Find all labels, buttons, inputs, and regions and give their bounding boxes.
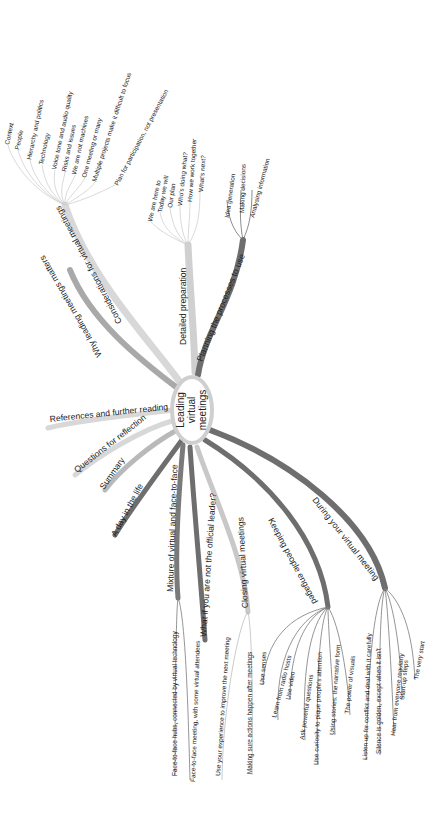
leaf-making-sure-actions[interactable]: Making sure actions happen after meeting… bbox=[246, 652, 254, 774]
central-title-line-3: meetings bbox=[197, 390, 208, 431]
leaf-analysing-info[interactable]: Analysing information bbox=[248, 157, 272, 219]
leaf-whats-next[interactable]: What's next? bbox=[197, 154, 207, 192]
leaf-labels: Context People Hierarchy and politics Te… bbox=[3, 71, 427, 782]
central-title-line-1: Leading bbox=[175, 392, 186, 428]
branch-label-day-in-life[interactable]: A day in the life bbox=[109, 482, 145, 538]
branch-ribbons bbox=[48, 205, 385, 640]
branch-label-closing[interactable]: Closing virtual meetings bbox=[235, 517, 250, 609]
leaf-technology[interactable]: Technology bbox=[37, 131, 52, 165]
branch-label-detailed-prep[interactable]: Detailed preparation bbox=[178, 267, 188, 345]
branch-detailed-prep bbox=[188, 245, 195, 372]
branch-label-references[interactable]: References and further reading bbox=[49, 402, 169, 424]
leaf-silence-golden[interactable]: Silence is golden, except when it isn't bbox=[375, 648, 383, 754]
leaf-listen-conflict[interactable]: Listen up for conflict and deal with it … bbox=[361, 632, 373, 760]
central-title-line-2: virtual bbox=[186, 397, 197, 424]
leaf-context[interactable]: Context bbox=[3, 122, 14, 145]
leaf-use-senses[interactable]: Use senses bbox=[258, 651, 267, 685]
branch-label-keeping[interactable]: Keeping people engaged bbox=[266, 516, 320, 605]
branch-label-planning[interactable]: Planning the processes to use bbox=[195, 252, 247, 363]
leaf-face-hubs[interactable]: Face-to-face hubs, connected by virtual … bbox=[171, 631, 179, 776]
leaf-idea-generation[interactable]: Idea generation bbox=[223, 173, 237, 219]
leaf-curiosity[interactable]: Use curiosity to pique people's attentio… bbox=[312, 652, 324, 765]
mindmap-canvas: Leading virtual meetings Considerations … bbox=[0, 0, 439, 818]
leaf-people[interactable]: People bbox=[13, 129, 25, 151]
leaf-face-meeting[interactable]: Face-to-face meeting, with some virtual … bbox=[189, 641, 202, 783]
leaf-very-start[interactable]: The very start bbox=[412, 640, 427, 680]
leaf-visuals[interactable]: The power of visuals bbox=[343, 655, 357, 714]
leaf-making-decisions[interactable]: Making decisions bbox=[238, 164, 248, 213]
leaf-stories[interactable]: Using stories: the narrative form bbox=[328, 644, 342, 735]
central-node[interactable]: Leading virtual meetings bbox=[172, 377, 212, 443]
